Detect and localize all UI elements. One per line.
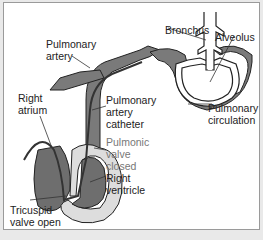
label-alveolus: Alveolus — [215, 31, 255, 43]
label-right-atrium: Right atrium — [18, 92, 47, 116]
label-pulmonary-circulation: Pulmonary circulation — [208, 102, 258, 126]
label-pa-catheter: Pulmonary artery catheter — [106, 94, 156, 130]
label-tricuspid-valve: Tricuspid valve open — [10, 204, 61, 228]
label-pulmonic-valve: Pulmonic valve closed — [106, 136, 149, 172]
label-right-ventricle: Right ventricle — [106, 172, 145, 196]
label-pulmonary-artery: Pulmonary artery — [46, 38, 96, 62]
label-bronchus: Bronchus — [165, 24, 209, 36]
